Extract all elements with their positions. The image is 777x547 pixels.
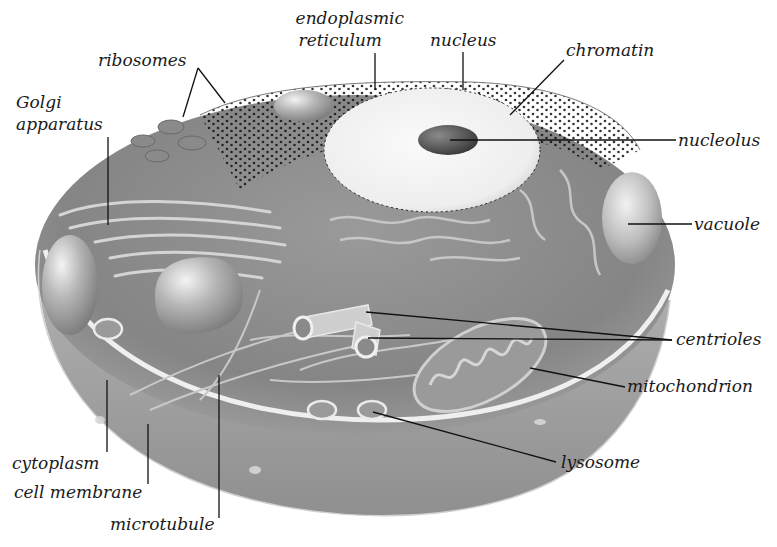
- label-ribosomes: ribosomes: [98, 50, 187, 70]
- label-endoplasmic-reticulum-2: reticulum: [252, 30, 382, 50]
- vesicle-top: [274, 90, 334, 122]
- label-lysosome: lysosome: [561, 452, 640, 472]
- vacuole-right: [602, 172, 662, 264]
- label-cytoplasm: cytoplasm: [12, 453, 100, 473]
- label-centrioles: centrioles: [676, 329, 761, 349]
- label-nucleus: nucleus: [430, 30, 497, 50]
- label-cell-membrane: cell membrane: [14, 482, 142, 502]
- label-golgi-1: Golgi: [16, 92, 62, 112]
- vacuole-left: [42, 235, 98, 335]
- cell-diagram: endoplasmic reticulum nucleus chromatin …: [0, 0, 777, 547]
- label-microtubule: microtubule: [110, 514, 215, 534]
- label-chromatin: chromatin: [566, 40, 654, 60]
- label-golgi-2: apparatus: [16, 114, 103, 134]
- cell-illustration: [0, 0, 777, 547]
- label-nucleolus: nucleolus: [678, 130, 760, 150]
- label-vacuole: vacuole: [694, 214, 760, 234]
- label-mitochondrion: mitochondrion: [627, 376, 753, 396]
- label-endoplasmic-reticulum-1: endoplasmic: [252, 8, 404, 28]
